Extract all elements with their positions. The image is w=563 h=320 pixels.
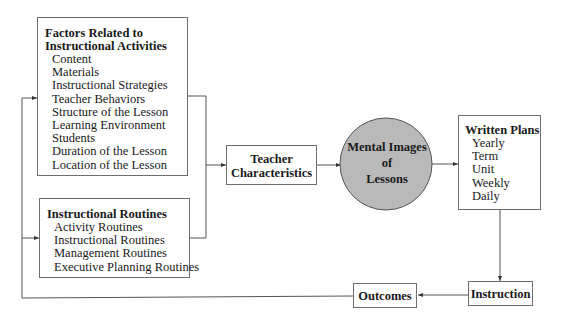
instruction-box: Instruction — [468, 281, 533, 306]
outcomes-box: Outcomes — [353, 283, 417, 308]
mental-images-line2: of — [341, 155, 433, 171]
teacher-characteristics-box: Teacher Characteristics — [226, 145, 317, 185]
written-plans-box: Written Plans Yearly Term Unit Weekly Da… — [458, 115, 541, 210]
mental-images-line3: Lessons — [341, 171, 433, 187]
list-item: Location of the Lesson — [45, 159, 187, 172]
list-item: Executive Planning Routines — [47, 261, 189, 274]
list-item: Unit — [465, 163, 540, 176]
instruction-label: Instruction — [469, 287, 532, 301]
list-item: Management Routines — [47, 247, 189, 260]
connector-factors-to-merge — [188, 96, 206, 238]
list-item: Daily — [465, 190, 540, 203]
list-item: Duration of the Lesson — [45, 145, 187, 158]
list-item: Teacher Behaviors — [45, 93, 187, 106]
teacher-line1: Teacher — [227, 152, 316, 166]
list-item: Instructional Strategies — [45, 79, 187, 92]
factors-box: Factors Related to Instructional Activit… — [37, 17, 188, 176]
mental-images-label: Mental Images of Lessons — [341, 139, 433, 187]
routines-box: Instructional Routines Activity Routines… — [39, 198, 190, 278]
outcomes-label: Outcomes — [354, 289, 416, 303]
mental-images-line1: Mental Images — [341, 139, 433, 155]
teacher-line2: Characteristics — [227, 166, 316, 180]
list-item: Weekly — [465, 177, 540, 190]
